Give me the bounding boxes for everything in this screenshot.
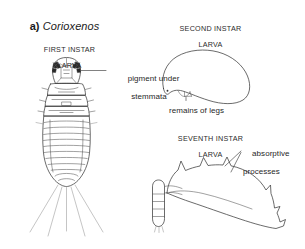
heading-seventh-instar-larva: SEVENTH INSTAR LARVA (158, 127, 254, 167)
caudal-bristles (30, 185, 103, 236)
heading-second-line2: LARVA (198, 40, 222, 49)
heading-second-line1: SECOND INSTAR (180, 24, 242, 33)
heading-seventh-line2: LARVA (198, 150, 222, 159)
callout-absorptive-processes: absorptive processes (243, 141, 305, 195)
first-instar-larva-drawing (30, 58, 103, 237)
panel-label: a) (30, 20, 40, 32)
heading-first-line1: FIRST INSTAR (44, 45, 95, 54)
callout-absorptive-line1: absorptive (252, 149, 289, 158)
figure-panel: a) Corioxenos FIRST INSTAR LARVA SECOND … (0, 0, 305, 249)
heading-seventh-line1: SEVENTH INSTAR (178, 134, 243, 143)
heading-first-line2: LARVA (57, 61, 81, 70)
callout-pigment-line1: pigment under (128, 74, 180, 83)
heading-first-instar-larva: FIRST INSTAR LARVA (22, 38, 108, 78)
callout-absorptive-line2: processes (243, 168, 305, 177)
callout-remains-of-legs: remains of legs (146, 98, 238, 125)
heading-second-instar-larva: SECOND INSTAR LARVA (160, 17, 252, 57)
callout-legs-line1: remains of legs (169, 106, 224, 115)
taxon-name: Corioxenos (43, 20, 100, 32)
